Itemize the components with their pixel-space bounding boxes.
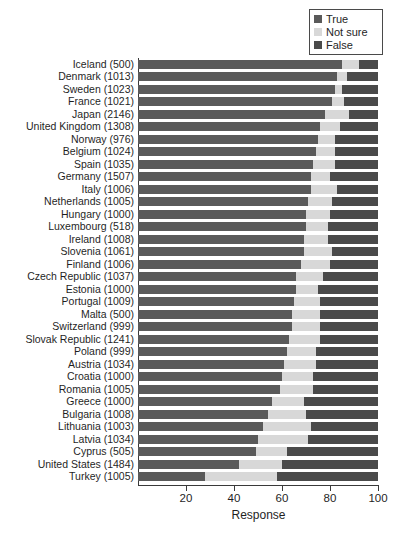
bar-segment-false [316, 347, 378, 356]
bar-row [138, 385, 378, 394]
y-axis-label: Latvia (1034) [0, 434, 134, 445]
bar-segment-not-sure [306, 222, 328, 231]
y-axis-label: Italy (1006) [0, 184, 134, 195]
bar-rows [138, 58, 378, 483]
x-tick-label: 60 [276, 492, 289, 505]
bar-segment-false [347, 72, 378, 81]
bar-segment-false [328, 235, 378, 244]
bar-row [138, 322, 378, 331]
bar-segment-false [304, 397, 378, 406]
bar-segment-true [138, 110, 325, 119]
bar-segment-not-sure [311, 172, 330, 181]
bar-segment-false [342, 85, 378, 94]
bar-segment-false [330, 260, 378, 269]
plot-area [138, 58, 378, 483]
y-axis-label: Portugal (1009) [0, 296, 134, 307]
bar-row [138, 235, 378, 244]
y-axis-label: Iceland (500) [0, 59, 134, 70]
y-axis-label: Romania (1005) [0, 384, 134, 395]
y-axis-label: Malta (500) [0, 309, 134, 320]
bar-segment-true [138, 85, 335, 94]
bar-row [138, 172, 378, 181]
bar-segment-not-sure [306, 210, 330, 219]
bar-segment-not-sure [335, 85, 342, 94]
bar-segment-true [138, 247, 304, 256]
bar-segment-false [320, 297, 378, 306]
bar-row [138, 135, 378, 144]
bar-segment-false [349, 110, 378, 119]
bar-segment-not-sure [320, 122, 339, 131]
bar-segment-not-sure [337, 72, 347, 81]
y-axis-label: Turkey (1005) [0, 471, 134, 482]
y-axis-label: United Kingdom (1308) [0, 121, 134, 132]
bar-segment-true [138, 347, 287, 356]
bar-segment-false [320, 335, 378, 344]
bar-row [138, 310, 378, 319]
bar-segment-false [316, 360, 378, 369]
bar-segment-true [138, 372, 282, 381]
x-tick-label: 80 [324, 492, 337, 505]
y-axis-label: Slovenia (1061) [0, 246, 134, 257]
y-axis-label: Hungary (1000) [0, 209, 134, 220]
x-axis-title: Response [138, 508, 379, 522]
bar-segment-false [330, 210, 378, 219]
legend-label-not-sure: Not sure [326, 26, 368, 38]
bar-segment-true [138, 172, 311, 181]
bar-row [138, 110, 378, 119]
y-axis-label: Cyprus (505) [0, 446, 134, 457]
y-axis-label: Netherlands (1005) [0, 196, 134, 207]
bar-segment-true [138, 235, 304, 244]
bar-row [138, 410, 378, 419]
bar-segment-true [138, 472, 205, 481]
legend-item-false: False [314, 39, 378, 51]
bar-segment-false [335, 160, 378, 169]
bar-segment-true [138, 460, 239, 469]
bar-segment-false [337, 185, 378, 194]
bar-segment-true [138, 260, 301, 269]
y-axis-label: Finland (1006) [0, 259, 134, 270]
bar-segment-true [138, 285, 296, 294]
bar-row [138, 60, 378, 69]
y-axis-labels: Iceland (500)Denmark (1013)Sweden (1023)… [0, 58, 134, 483]
y-axis-label: Luxembourg (518) [0, 221, 134, 232]
bar-segment-true [138, 185, 311, 194]
bar-row [138, 197, 378, 206]
legend-swatch-false [314, 41, 322, 49]
y-axis-label: Estonia (1000) [0, 284, 134, 295]
bar-segment-true [138, 272, 296, 281]
bar-segment-not-sure [292, 310, 321, 319]
x-tick-mark [330, 486, 331, 491]
x-tick-mark [378, 486, 379, 491]
bar-row [138, 185, 378, 194]
bar-segment-not-sure [256, 447, 287, 456]
y-axis-label: Japan (2146) [0, 109, 134, 120]
y-axis-label: Ireland (1008) [0, 234, 134, 245]
bar-segment-true [138, 60, 342, 69]
bar-segment-not-sure [296, 272, 322, 281]
bar-segment-true [138, 72, 337, 81]
bar-segment-false [335, 135, 378, 144]
bar-segment-false [340, 122, 378, 131]
bar-segment-not-sure [332, 97, 344, 106]
bar-segment-false [318, 285, 378, 294]
y-axis-label: Slovak Republic (1241) [0, 334, 134, 345]
bar-row [138, 347, 378, 356]
bar-segment-true [138, 97, 332, 106]
y-axis-label: Austria (1034) [0, 359, 134, 370]
bar-segment-not-sure [304, 235, 328, 244]
y-axis-label: Switzerland (999) [0, 321, 134, 332]
bar-segment-true [138, 210, 306, 219]
bar-segment-true [138, 297, 294, 306]
legend-label-false: False [326, 39, 353, 51]
bar-segment-true [138, 135, 318, 144]
x-tick-label: 20 [180, 492, 193, 505]
bar-segment-not-sure [342, 60, 359, 69]
bar-row [138, 247, 378, 256]
bar-segment-false [320, 310, 378, 319]
bar-segment-not-sure [287, 347, 316, 356]
bar-segment-false [344, 97, 378, 106]
stacked-bar-chart: True Not sure False Iceland (500)Denmark… [0, 0, 393, 535]
bar-segment-not-sure [268, 410, 306, 419]
bar-segment-not-sure [318, 135, 335, 144]
bar-row [138, 147, 378, 156]
